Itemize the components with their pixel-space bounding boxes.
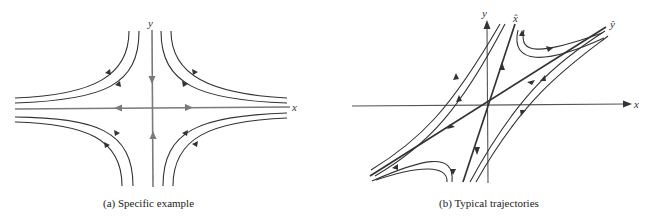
x-hat-label: x̂ [512,12,518,24]
arrow-icon [527,80,535,85]
x-axis-label-b: x [633,98,639,110]
arrow-icon [105,69,111,75]
arrow-icon [114,130,120,136]
y-hat-label: ŷ [609,18,615,30]
arrow-icon [456,95,462,102]
arrow-icon [192,141,198,147]
arrow-icon [520,110,526,116]
y-axis-label-b: y [481,7,487,19]
arrow-right-icon [185,104,193,111]
y-axis-a [152,30,153,187]
x-axis-b [352,104,627,106]
arrow-icon [499,62,505,70]
x-axis-label-a: x [291,101,297,113]
arrow-up-icon [150,131,157,139]
figure-a: y x [15,17,297,187]
arrow-icon [540,75,546,81]
arrow-left-icon [114,105,122,112]
x-hat-line [463,24,515,182]
figure-b: x y x̂ ŷ [352,7,639,183]
arrow-icon [453,73,459,80]
x-axis-arrow-icon [623,101,632,108]
y-axis-arrow-icon [484,20,491,29]
phase-portraits: y x [0,0,650,220]
arrow-icon [546,46,553,52]
arrow-icon [474,147,480,155]
arrow-down-icon [149,76,156,84]
y-axis-b [487,24,488,183]
arrow-icon [182,130,188,136]
arrow-icon [192,69,198,75]
y-axis-label-a: y [147,17,153,29]
axes-a [15,30,290,187]
caption-a: (a) Specific example [103,197,194,209]
caption-b: (b) Typical trajectories [439,197,539,209]
